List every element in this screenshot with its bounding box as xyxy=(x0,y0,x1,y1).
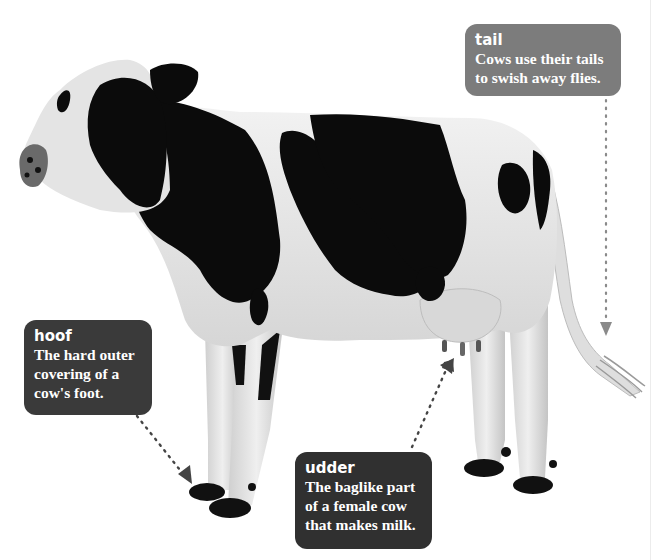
page-edge-line xyxy=(650,0,651,560)
udder-label-box: udder The baglike part of a female cow t… xyxy=(295,452,432,549)
udder-description-line-2: of a female cow xyxy=(305,496,422,515)
tail-description-line-2: to swish away flies. xyxy=(475,68,611,87)
tail-term: tail xyxy=(475,32,611,49)
hoof-term: hoof xyxy=(34,328,142,345)
hoof-description-line-1: The hard outer xyxy=(34,345,142,364)
hoof-description-line-2: covering of a xyxy=(34,364,142,383)
udder-description-line-3: that makes milk. xyxy=(305,515,422,534)
udder-term: udder xyxy=(305,460,422,477)
udder-description-line-1: The baglike part xyxy=(305,477,422,496)
tail-pointer-arrow xyxy=(600,100,612,336)
udder-pointer-arrow xyxy=(412,358,454,447)
tail-description-line-1: Cows use their tails xyxy=(475,49,611,68)
hoof-description-line-3: cow's foot. xyxy=(34,383,142,402)
hoof-label-box: hoof The hard outer covering of a cow's … xyxy=(24,320,152,415)
cow-body xyxy=(118,99,557,356)
hoof-pointer-arrow xyxy=(137,416,192,484)
tail-label-box: tail Cows use their tails to swish away … xyxy=(465,24,621,96)
